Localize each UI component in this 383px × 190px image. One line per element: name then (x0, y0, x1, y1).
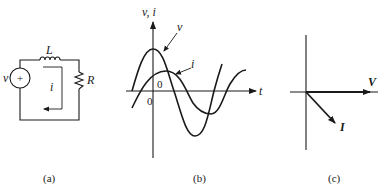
source-label: v (3, 71, 9, 85)
figure-canvas: + v L R i (a) v, i t v i 0 0 (b) V I (c) (0, 0, 383, 190)
source-plus-sign: + (17, 72, 23, 84)
origin-label-i: 0 (147, 95, 153, 107)
y-axis-label: v, i (142, 5, 156, 19)
caption-c: (c) (328, 172, 341, 185)
current-phasor-arrow (306, 92, 335, 123)
caption-a: (a) (43, 172, 56, 185)
resistor-icon (75, 72, 83, 89)
origin-label-v: 0 (157, 78, 163, 90)
panel-a-circuit (10, 57, 83, 120)
v-curve-label: v (177, 20, 183, 34)
current-label: i (50, 80, 53, 94)
v-label-pointer (164, 33, 177, 51)
caption-b: (b) (193, 172, 206, 185)
panel-b-waveforms (126, 22, 256, 158)
t-axis-label: t (259, 84, 263, 98)
v-waveform (132, 49, 222, 136)
i-label-pointer (176, 68, 191, 74)
panel-c-phasor (290, 35, 378, 150)
resistor-label: R (86, 73, 95, 87)
circuit-wire (20, 60, 40, 68)
inductor-label: L (45, 43, 53, 57)
i-curve-label: i (191, 57, 194, 71)
i-waveform (132, 70, 246, 114)
current-phasor-label: I (339, 120, 346, 134)
voltage-phasor-label: V (368, 75, 377, 89)
circuit-wire (60, 60, 79, 72)
inductor-icon (40, 57, 60, 60)
